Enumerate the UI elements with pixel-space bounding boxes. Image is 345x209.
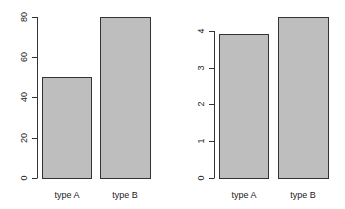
right-ytick-1: 1 xyxy=(196,138,206,143)
right-bar-type-a xyxy=(220,35,269,179)
right-category-type-a: type A xyxy=(231,190,256,200)
left-ytick-80: 80 xyxy=(19,12,29,22)
left-ytick-20: 20 xyxy=(19,133,29,143)
right-y-ticks xyxy=(209,32,215,179)
right-ytick-2: 2 xyxy=(196,101,206,106)
right-y-tick-labels: 0 1 2 3 4 xyxy=(196,28,206,180)
left-y-tick-labels: 0 20 40 60 80 xyxy=(19,12,29,181)
chart-canvas: 0 20 40 60 80 type A type B 0 1 2 3 4 xyxy=(0,0,345,209)
left-ytick-0: 0 xyxy=(19,175,29,180)
right-ytick-4: 4 xyxy=(196,28,206,33)
left-bar-chart: 0 20 40 60 80 type A type B xyxy=(19,12,151,200)
left-bar-type-a xyxy=(43,78,92,179)
right-ytick-3: 3 xyxy=(196,65,206,70)
left-category-type-b: type B xyxy=(112,190,138,200)
right-bar-chart: 0 1 2 3 4 type A type B xyxy=(196,18,329,201)
left-ytick-60: 60 xyxy=(19,52,29,62)
left-ytick-40: 40 xyxy=(19,92,29,102)
right-ytick-0: 0 xyxy=(196,175,206,180)
left-bar-type-b xyxy=(101,18,151,179)
right-category-type-b: type B xyxy=(290,190,316,200)
left-y-ticks xyxy=(32,18,38,179)
left-category-type-a: type A xyxy=(54,190,79,200)
right-bar-type-b xyxy=(279,18,329,179)
